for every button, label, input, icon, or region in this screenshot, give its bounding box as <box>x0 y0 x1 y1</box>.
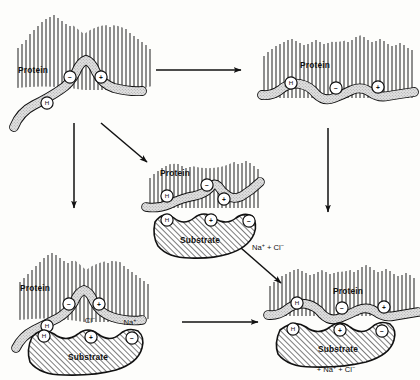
substrate-marker-positive-p3: + <box>205 214 217 226</box>
svg-text:−: − <box>247 218 251 225</box>
substrate-marker-negative-p4: − <box>126 332 138 344</box>
substrate-label-p4: Substrate <box>68 352 108 362</box>
svg-text:−: − <box>205 182 209 189</box>
svg-text:H: H <box>165 192 169 199</box>
svg-text:−: − <box>380 328 384 335</box>
svg-text:−: − <box>130 335 134 342</box>
protein-label-p1: Protein <box>18 65 48 75</box>
svg-text:+: + <box>338 327 342 334</box>
svg-text:H: H <box>45 322 49 329</box>
svg-text:+: + <box>99 74 103 81</box>
substrate-marker-hydrogen-p3: H <box>161 214 173 226</box>
marker-hydrogen-p2: H <box>285 77 297 89</box>
charge-marker-negative-p4: − <box>63 298 75 310</box>
svg-text:+: + <box>209 217 213 224</box>
svg-text:+: + <box>376 84 380 91</box>
svg-text:H: H <box>295 299 299 306</box>
substrate-label-p5: Substrate <box>318 344 358 354</box>
substrate-marker-negative-p3: − <box>243 215 255 227</box>
substrate-label-p3: Substrate <box>180 235 220 245</box>
protein-label-p2: Protein <box>300 60 330 70</box>
svg-text:H: H <box>291 325 295 332</box>
marker-hydrogen-p5: H <box>291 297 303 309</box>
substrate-marker-hydrogen-p4: H <box>38 330 50 342</box>
marker-hydrogen-p1: H <box>41 97 53 109</box>
arrow-label-na-cl: Na+ + Cl− <box>252 242 284 252</box>
svg-text:+: + <box>89 334 93 341</box>
substrate-marker-hydrogen-p5: H <box>287 323 299 335</box>
svg-text:+: + <box>382 304 386 311</box>
marker-hydrogen-p3: H <box>161 190 173 202</box>
svg-text:−: − <box>67 301 71 308</box>
protein-label-p4: Protein <box>20 283 50 293</box>
charge-marker-positive-p1: + <box>95 71 107 83</box>
svg-text:+: + <box>97 301 101 308</box>
svg-text:+: + <box>222 196 226 203</box>
svg-text:H: H <box>45 99 49 106</box>
charge-marker-negative-p3: − <box>201 179 213 191</box>
protein-label-p3: Protein <box>160 168 190 178</box>
charge-marker-positive-p3: + <box>218 193 230 205</box>
charge-marker-positive-p5: + <box>378 301 390 313</box>
substrate-marker-positive-p5: + <box>334 324 346 336</box>
charge-marker-negative-p2: − <box>330 82 342 94</box>
substrate-marker-negative-p5: − <box>376 325 388 337</box>
mechanism-diagram: Protein − + H <box>0 0 420 380</box>
charge-marker-negative-p5: − <box>336 302 348 314</box>
charge-marker-negative-p1: − <box>64 71 76 83</box>
substrate-marker-positive-p4: + <box>85 331 97 343</box>
svg-text:H: H <box>289 79 293 86</box>
svg-text:−: − <box>334 85 338 92</box>
protein-label-p5: Protein <box>333 286 363 296</box>
figure-canvas: Protein − + H <box>0 0 420 380</box>
svg-text:−: − <box>68 74 72 81</box>
svg-text:H: H <box>165 216 169 223</box>
svg-text:−: − <box>340 305 344 312</box>
ion-products-label-p5: + Na+ + Cl− <box>317 364 355 374</box>
charge-marker-positive-p2: + <box>372 81 384 93</box>
charge-marker-positive-p4: + <box>93 298 105 310</box>
svg-text:H: H <box>42 332 46 339</box>
